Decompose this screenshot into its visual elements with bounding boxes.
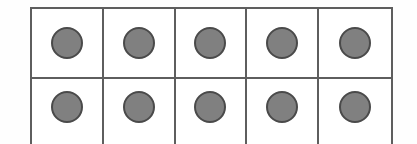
ten-frame-cell[interactable] bbox=[176, 9, 248, 79]
counter-disc-icon[interactable] bbox=[123, 91, 155, 123]
counter-disc-icon[interactable] bbox=[194, 27, 226, 59]
ten-frame-cell[interactable] bbox=[104, 9, 176, 79]
counter-disc-icon[interactable] bbox=[194, 91, 226, 123]
ten-frame-cell[interactable] bbox=[104, 79, 176, 144]
figure-canvas bbox=[0, 0, 417, 144]
ten-frame-cell[interactable] bbox=[176, 79, 248, 144]
counter-disc-icon[interactable] bbox=[339, 27, 371, 59]
ten-frame-cell[interactable] bbox=[319, 79, 391, 144]
counter-disc-icon[interactable] bbox=[266, 91, 298, 123]
counter-disc-icon[interactable] bbox=[339, 91, 371, 123]
ten-frame-cell[interactable] bbox=[32, 79, 104, 144]
ten-frame-cell[interactable] bbox=[32, 9, 104, 79]
ten-frame-cell[interactable] bbox=[247, 9, 319, 79]
ten-frame-grid bbox=[30, 7, 393, 144]
counter-disc-icon[interactable] bbox=[51, 91, 83, 123]
counter-disc-icon[interactable] bbox=[266, 27, 298, 59]
ten-frame-cell[interactable] bbox=[247, 79, 319, 144]
counter-disc-icon[interactable] bbox=[51, 27, 83, 59]
ten-frame-cell[interactable] bbox=[319, 9, 391, 79]
counter-disc-icon[interactable] bbox=[123, 27, 155, 59]
